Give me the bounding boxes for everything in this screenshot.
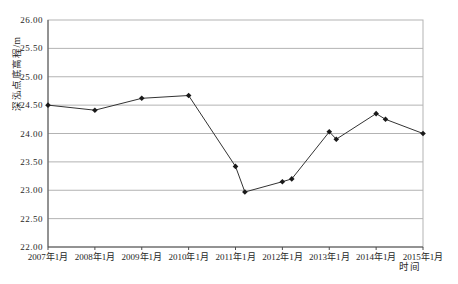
data-point-marker bbox=[383, 117, 389, 123]
y-tick-label: 23.00 bbox=[20, 185, 43, 195]
y-tick-label: 24.00 bbox=[20, 129, 43, 139]
y-tick-label: 24.50 bbox=[20, 100, 43, 110]
x-tick-label: 2013年1月 bbox=[309, 251, 350, 262]
series-line bbox=[48, 96, 423, 193]
x-axis-title: 时间 bbox=[399, 259, 421, 273]
thalweg-elevation-chart: 深泓点底高程/m 22.0022.5023.0023.5024.0024.502… bbox=[0, 0, 458, 284]
data-point-marker bbox=[280, 179, 286, 185]
x-tick-label: 2014年1月 bbox=[356, 251, 397, 262]
x-tick-label: 2012年1月 bbox=[262, 251, 303, 262]
y-tick-label: 25.50 bbox=[20, 43, 43, 53]
data-point-marker bbox=[420, 131, 426, 137]
y-tick-label: 26.00 bbox=[20, 15, 43, 25]
x-tick-label: 2010年1月 bbox=[168, 251, 209, 262]
data-point-marker bbox=[373, 111, 379, 117]
data-point-marker bbox=[45, 102, 51, 108]
y-axis-title: 深泓点底高程/m bbox=[11, 28, 24, 120]
y-tick-label: 22.00 bbox=[20, 242, 43, 252]
x-tick-label: 2007年1月 bbox=[28, 251, 69, 262]
data-point-marker bbox=[186, 93, 192, 99]
data-point-marker bbox=[139, 96, 145, 102]
data-point-marker bbox=[92, 107, 98, 113]
y-tick-label: 22.50 bbox=[20, 214, 43, 224]
data-point-marker bbox=[233, 164, 239, 170]
x-tick-label: 2009年1月 bbox=[122, 251, 163, 262]
y-tick-label: 25.00 bbox=[20, 72, 43, 82]
x-tick-label: 2008年1月 bbox=[75, 251, 116, 262]
plot-area: 22.0022.5023.0023.5024.0024.5025.0025.50… bbox=[0, 0, 458, 284]
y-tick-label: 23.50 bbox=[20, 157, 43, 167]
x-tick-label: 2011年1月 bbox=[215, 251, 255, 262]
